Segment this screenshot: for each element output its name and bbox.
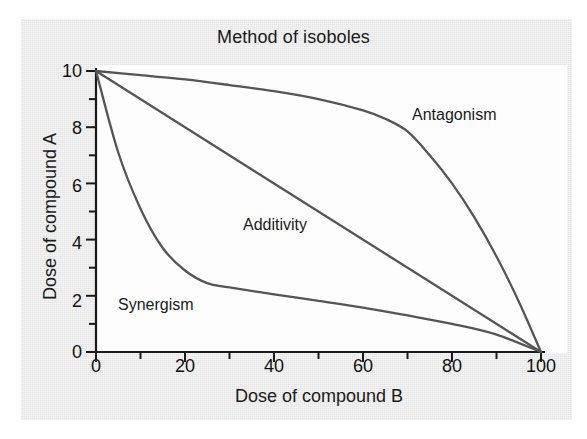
axis-lines: [94, 68, 545, 352]
x-axis-ticks: [96, 352, 541, 362]
curve-additivity: [96, 71, 541, 352]
y-axis-ticks: [86, 71, 96, 352]
plot-svg: [0, 0, 587, 439]
isobole-figure: Method of isoboles Dose of compound A Do…: [0, 0, 587, 439]
curves: [96, 71, 541, 352]
